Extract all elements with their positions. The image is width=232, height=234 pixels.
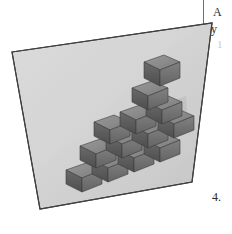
page-canvas: A y 1 4. — [0, 0, 232, 234]
cube-photograph — [0, 0, 232, 234]
photo-click-region[interactable] — [8, 22, 214, 212]
